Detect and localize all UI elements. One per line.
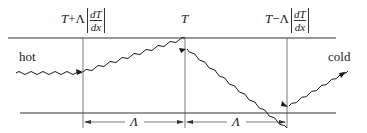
- cold-label: cold: [328, 50, 350, 63]
- hot-label: hot: [19, 50, 36, 63]
- spacing-label-right: Λ: [232, 115, 240, 128]
- gradient-fraction: dTdx: [87, 8, 105, 33]
- arrowhead-icon: [339, 72, 346, 78]
- arrowhead-icon: [76, 69, 83, 75]
- gradient-fraction: dTdx: [291, 8, 309, 33]
- left-position-label: T+ΛdTdx: [61, 8, 105, 33]
- right-position-label: T−ΛdTdx: [265, 8, 309, 33]
- center-position-label: T: [181, 12, 188, 25]
- spacing-label-left: Λ: [130, 115, 138, 128]
